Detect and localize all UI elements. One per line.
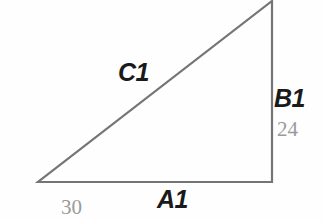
side-label-a1: A1 bbox=[157, 187, 188, 212]
side-label-c1: C1 bbox=[118, 60, 149, 85]
side-value-b1: 24 bbox=[277, 119, 298, 140]
side-value-a1: 30 bbox=[61, 197, 82, 218]
triangle-outline bbox=[38, 1, 272, 182]
triangle-diagram-canvas: C1 B1 24 A1 30 bbox=[0, 0, 323, 221]
side-label-b1: B1 bbox=[274, 86, 305, 111]
